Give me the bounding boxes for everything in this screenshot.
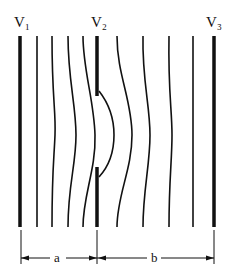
arrow-right-icon [89,256,97,261]
arrow-left-icon [21,256,29,261]
label-v2: V₂ [91,14,107,30]
equipotential-line [68,36,76,227]
equipotential-line [117,36,132,227]
equipotential-line [169,36,172,227]
dimension-a-label: a [54,250,60,265]
arrow-right-icon [206,256,214,261]
equipotential-line [143,36,150,227]
equipotential-line [52,36,55,227]
equipotential-line-gap [99,91,114,177]
arrow-left-icon [98,256,106,261]
dimension-b-label: b [151,250,158,265]
label-v3: V₃ [206,14,222,30]
equipotential-line [83,36,95,227]
label-v1: V₁ [14,14,30,30]
field-diagram: V₁ V₂ V₃ a b [0,0,234,277]
